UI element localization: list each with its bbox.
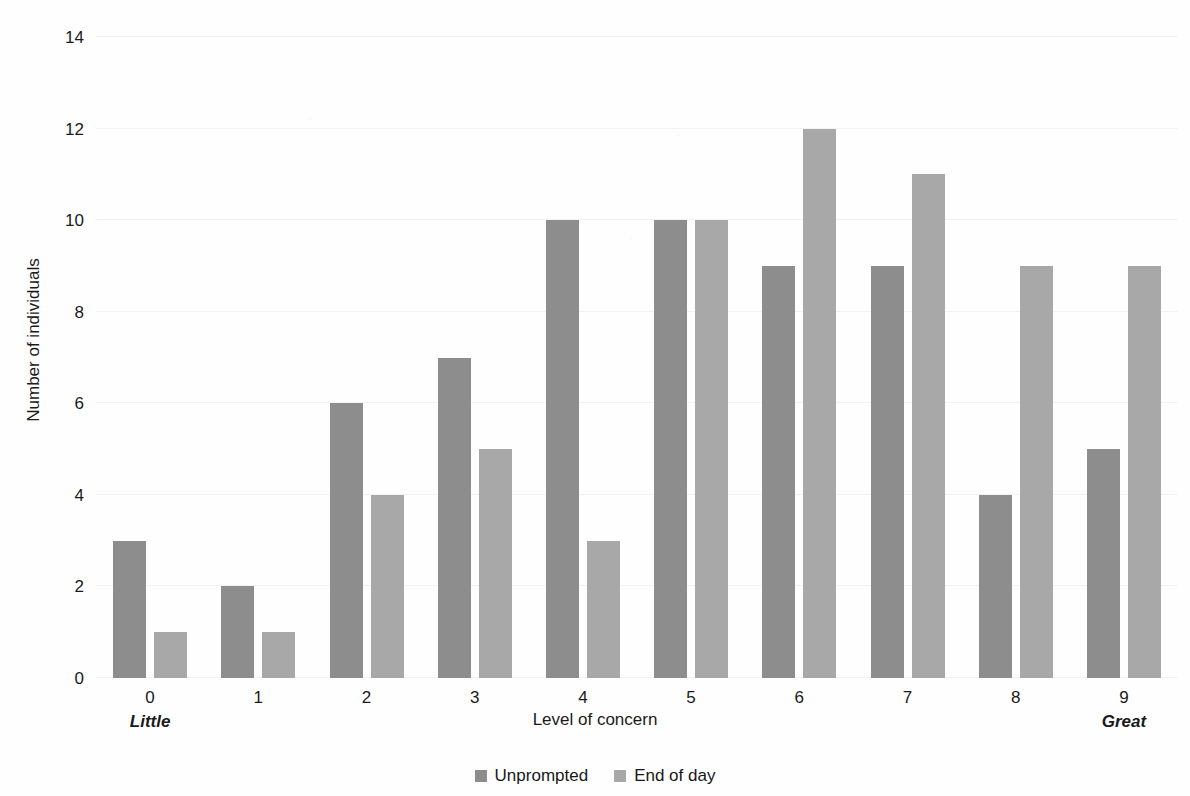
bar bbox=[221, 586, 254, 678]
gridline bbox=[96, 311, 1178, 312]
chart-legend: UnpromptedEnd of day bbox=[0, 766, 1190, 786]
legend-label: Unprompted bbox=[495, 766, 589, 786]
y-axis-tick-label: 0 bbox=[44, 670, 84, 687]
bar bbox=[371, 495, 404, 678]
bar bbox=[546, 220, 579, 678]
y-axis-tick-label: 6 bbox=[44, 395, 84, 412]
bar bbox=[695, 220, 728, 678]
plot-area bbox=[96, 37, 1178, 678]
gridline bbox=[96, 219, 1178, 220]
gridline bbox=[96, 36, 1178, 37]
bar bbox=[438, 358, 471, 679]
bar bbox=[1128, 266, 1161, 678]
legend-label: End of day bbox=[634, 766, 715, 786]
bar bbox=[479, 449, 512, 678]
x-axis-tick-label: 3 bbox=[435, 688, 515, 708]
bar bbox=[912, 174, 945, 678]
gridline bbox=[96, 585, 1178, 586]
legend-item: End of day bbox=[614, 766, 715, 786]
bar bbox=[113, 541, 146, 678]
y-axis-tick-label: 14 bbox=[44, 29, 84, 46]
x-axis-title: Level of concern bbox=[0, 710, 1190, 730]
legend-swatch-icon bbox=[614, 770, 626, 782]
bar bbox=[154, 632, 187, 678]
bar bbox=[587, 541, 620, 678]
y-axis-tick-label: 12 bbox=[44, 121, 84, 138]
y-axis-title: Number of individuals bbox=[24, 220, 44, 460]
y-axis-tick-label: 2 bbox=[44, 578, 84, 595]
x-axis-tick-label: 6 bbox=[759, 688, 839, 708]
x-axis-tick-label: 1 bbox=[218, 688, 298, 708]
bar bbox=[330, 403, 363, 678]
gridline bbox=[96, 402, 1178, 403]
bar bbox=[762, 266, 795, 678]
legend-item: Unprompted bbox=[475, 766, 589, 786]
bar bbox=[979, 495, 1012, 678]
bar bbox=[803, 129, 836, 678]
bar bbox=[1020, 266, 1053, 678]
bar bbox=[654, 220, 687, 678]
gridline bbox=[96, 677, 1178, 678]
y-axis-tick-label: 4 bbox=[44, 487, 84, 504]
bar bbox=[262, 632, 295, 678]
x-axis-tick-label: 4 bbox=[543, 688, 623, 708]
legend-swatch-icon bbox=[475, 770, 487, 782]
bar bbox=[1087, 449, 1120, 678]
x-axis-tick-label: 9 bbox=[1084, 688, 1164, 708]
x-axis-tick-label: 8 bbox=[976, 688, 1056, 708]
x-axis-tick-label: 7 bbox=[868, 688, 948, 708]
gridline bbox=[96, 128, 1178, 129]
x-axis-tick-label: 0 bbox=[110, 688, 190, 708]
bar-chart-figure: 02468101214 Number of individuals 0Littl… bbox=[0, 0, 1190, 796]
x-axis-tick-label: 5 bbox=[651, 688, 731, 708]
y-axis-tick-label: 10 bbox=[44, 212, 84, 229]
bar bbox=[871, 266, 904, 678]
x-axis-tick-label: 2 bbox=[327, 688, 407, 708]
y-axis-tick-label: 8 bbox=[44, 304, 84, 321]
gridline bbox=[96, 494, 1178, 495]
